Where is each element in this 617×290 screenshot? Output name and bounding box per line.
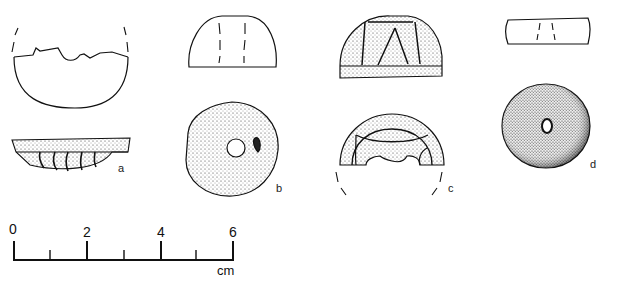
scale-tick-0: 0 xyxy=(9,221,17,237)
artifact-label-b: b xyxy=(276,182,282,194)
scale-tick-6: 6 xyxy=(229,224,237,240)
artifact-label-a: a xyxy=(118,162,124,174)
artifact-b-top-view xyxy=(186,102,278,196)
artifact-b-side-view xyxy=(189,16,276,67)
scale-bar xyxy=(14,241,234,261)
scale-unit: cm xyxy=(217,263,234,278)
artifact-c-top-view xyxy=(336,114,444,195)
artifact-c-side-view xyxy=(340,16,442,78)
scale-tick-4: 4 xyxy=(157,224,165,240)
artifact-label-c: c xyxy=(448,182,454,194)
artifact-a-side-view xyxy=(12,138,130,171)
artifact-label-d: d xyxy=(590,158,596,170)
artifact-a-top-view xyxy=(12,27,128,108)
scale-tick-2: 2 xyxy=(83,224,91,240)
artifact-d-side-view xyxy=(506,18,590,44)
artifact-d-top-view xyxy=(502,84,590,168)
